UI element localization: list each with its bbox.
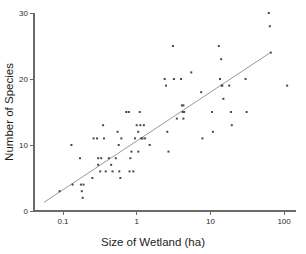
data-point bbox=[222, 98, 224, 100]
data-point bbox=[270, 52, 272, 54]
data-point bbox=[183, 111, 185, 113]
x-tick-label: 10 bbox=[206, 217, 215, 226]
data-point bbox=[173, 78, 175, 80]
data-point bbox=[269, 25, 271, 27]
data-point bbox=[176, 118, 178, 120]
data-point bbox=[129, 170, 131, 172]
data-point bbox=[218, 45, 220, 47]
data-point bbox=[129, 157, 131, 159]
data-point bbox=[131, 151, 133, 153]
data-point bbox=[79, 157, 81, 159]
tick-marks-group bbox=[30, 13, 284, 215]
axes-group bbox=[34, 13, 296, 211]
y-tick-label: 0 bbox=[24, 207, 29, 216]
data-point bbox=[220, 58, 222, 60]
data-point bbox=[103, 137, 105, 139]
data-points-group bbox=[59, 12, 289, 199]
data-point bbox=[139, 111, 141, 113]
regression-line-segment bbox=[44, 53, 270, 203]
y-tick-label: 30 bbox=[19, 9, 28, 18]
data-point bbox=[93, 137, 95, 139]
data-point bbox=[231, 124, 233, 126]
data-point bbox=[221, 85, 223, 87]
data-point bbox=[182, 104, 184, 106]
data-point bbox=[117, 131, 119, 133]
y-tick-labels: 0102030 bbox=[19, 9, 28, 216]
data-point bbox=[228, 85, 230, 87]
data-point bbox=[190, 71, 192, 73]
data-point bbox=[128, 111, 130, 113]
data-point bbox=[230, 111, 232, 113]
data-point bbox=[112, 170, 114, 172]
data-point bbox=[118, 170, 120, 172]
y-axis-title: Number of Species bbox=[3, 63, 15, 161]
x-axis-title: Size of Wetland (ha) bbox=[101, 236, 205, 248]
data-point bbox=[119, 177, 121, 179]
data-point bbox=[134, 137, 136, 139]
data-point bbox=[164, 78, 166, 80]
data-point bbox=[81, 190, 83, 192]
data-point bbox=[91, 177, 93, 179]
data-point bbox=[200, 91, 202, 93]
data-point bbox=[115, 157, 117, 159]
data-point bbox=[125, 111, 127, 113]
data-point bbox=[149, 144, 151, 146]
data-point bbox=[83, 184, 85, 186]
data-point bbox=[166, 131, 168, 133]
data-point bbox=[167, 151, 169, 153]
data-point bbox=[201, 137, 203, 139]
data-point bbox=[82, 197, 84, 199]
data-point bbox=[97, 157, 99, 159]
x-tick-label: 0.1 bbox=[57, 217, 69, 226]
data-point bbox=[96, 137, 98, 139]
scatter-plot-figure: 0.1110100 0102030 Size of Wetland (ha) N… bbox=[0, 0, 306, 254]
data-point bbox=[120, 137, 122, 139]
data-point bbox=[268, 12, 270, 14]
data-point bbox=[137, 131, 139, 133]
data-point bbox=[70, 144, 72, 146]
plot-canvas: 0.1110100 0102030 Size of Wetland (ha) N… bbox=[0, 0, 306, 254]
data-point bbox=[80, 184, 82, 186]
x-tick-labels: 0.1110100 bbox=[57, 217, 291, 226]
data-point bbox=[172, 45, 174, 47]
data-point bbox=[286, 85, 288, 87]
data-point bbox=[132, 170, 134, 172]
data-point bbox=[99, 170, 101, 172]
data-point bbox=[211, 111, 213, 113]
data-point bbox=[105, 170, 107, 172]
regression-line bbox=[44, 53, 270, 203]
y-tick-label: 10 bbox=[19, 141, 28, 150]
data-point bbox=[143, 124, 145, 126]
data-point bbox=[182, 118, 184, 120]
data-point bbox=[165, 85, 167, 87]
data-point bbox=[72, 184, 74, 186]
x-tick-label: 1 bbox=[134, 217, 139, 226]
data-point bbox=[100, 157, 102, 159]
data-point bbox=[110, 164, 112, 166]
data-point bbox=[180, 78, 182, 80]
data-point bbox=[59, 190, 61, 192]
data-point bbox=[118, 144, 120, 146]
data-point bbox=[102, 124, 104, 126]
data-point bbox=[246, 111, 248, 113]
data-point bbox=[97, 164, 99, 166]
data-point bbox=[137, 151, 139, 153]
data-point bbox=[219, 78, 221, 80]
data-point bbox=[136, 124, 138, 126]
data-point bbox=[142, 137, 144, 139]
data-point bbox=[139, 124, 141, 126]
x-tick-label: 100 bbox=[277, 217, 291, 226]
data-point bbox=[108, 157, 110, 159]
data-point bbox=[212, 131, 214, 133]
y-tick-label: 20 bbox=[19, 75, 28, 84]
data-point bbox=[245, 78, 247, 80]
data-point bbox=[144, 137, 146, 139]
